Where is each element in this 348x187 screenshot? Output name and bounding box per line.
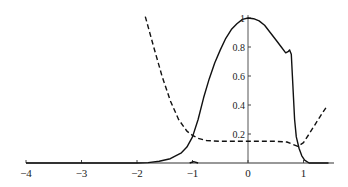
plot-series — [26, 17, 329, 163]
x-tick-label: −4 — [20, 167, 32, 179]
series-solid — [26, 18, 329, 163]
x-tick-label: 1 — [301, 167, 307, 179]
y-tick-label: 1 — [240, 13, 245, 24]
y-tick-label: 0.6 — [233, 71, 246, 82]
y-tick-label: 0.4 — [233, 100, 246, 111]
y-tick-label: 0.8 — [233, 42, 246, 53]
line-chart: −4−3−2−1010.20.40.60.81 — [0, 0, 348, 187]
x-tick-label: −1 — [187, 167, 199, 179]
tick-labels: −4−3−2−1010.20.40.60.81 — [20, 13, 306, 179]
x-tick-label: −2 — [131, 167, 143, 179]
x-tick-label: 0 — [245, 167, 251, 179]
x-tick-label: −3 — [76, 167, 88, 179]
axes — [26, 15, 334, 163]
y-tick-label: 0.2 — [233, 129, 246, 140]
